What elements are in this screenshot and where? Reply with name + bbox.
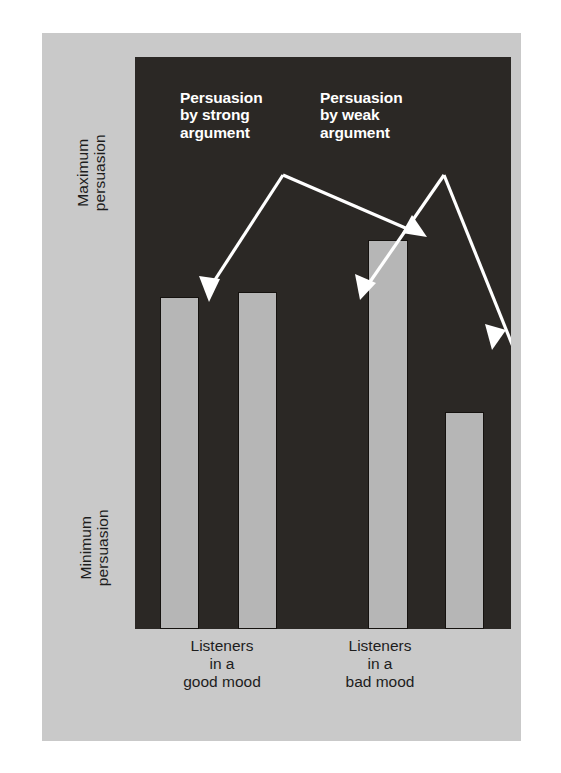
arrow-line-strong-to-bar1 (209, 175, 283, 289)
plot-area: Persuasion by strong argument Persuasion… (135, 57, 511, 629)
bar-good-mood-weak-argument (238, 292, 277, 629)
y-axis-maximum-line1: Maximum (75, 98, 92, 248)
arrow-line-weak-to-bar4 (444, 175, 511, 404)
x-axis-bad-mood-label: Listeners in a bad mood (300, 637, 460, 691)
x-axis-good-mood-line3: good mood (142, 673, 302, 691)
x-axis-good-mood-label: Listeners in a good mood (142, 637, 302, 691)
x-axis-good-mood-line2: in a (142, 655, 302, 673)
arrow-head-strong-to-bar1 (199, 276, 220, 302)
annotation-strong-line3: argument (180, 124, 263, 141)
arrow-line-strong-to-bar3 (283, 175, 417, 233)
annotation-weak-argument: Persuasion by weak argument (320, 89, 403, 141)
y-axis-minimum-line1: Minimum (78, 473, 95, 623)
annotation-strong-line2: by strong (180, 106, 263, 123)
bar-good-mood-strong-argument (160, 297, 199, 629)
bar-bad-mood-weak-argument (445, 412, 484, 629)
figure-panel: Maximum persuasion Minimum persuasion Pe… (42, 33, 521, 741)
arrow-head-weak-to-bar4 (485, 324, 506, 350)
y-axis-maximum-label: Maximum persuasion (75, 98, 108, 248)
annotation-weak-line1: Persuasion (320, 89, 403, 106)
y-axis-minimum-line2: persuasion (95, 473, 112, 623)
x-axis-bad-mood-line2: in a (300, 655, 460, 673)
arrow-head-strong-to-bar3 (402, 215, 427, 237)
y-axis-maximum-line2: persuasion (92, 98, 109, 248)
x-axis-bad-mood-line3: bad mood (300, 673, 460, 691)
annotation-strong-line1: Persuasion (180, 89, 263, 106)
annotation-strong-argument: Persuasion by strong argument (180, 89, 263, 141)
annotation-weak-line2: by weak (320, 106, 403, 123)
figure-root: Maximum persuasion Minimum persuasion Pe… (0, 0, 561, 773)
x-axis-good-mood-line1: Listeners (142, 637, 302, 655)
y-axis-minimum-label: Minimum persuasion (78, 473, 111, 623)
bar-bad-mood-strong-argument (368, 240, 408, 629)
x-axis-bad-mood-line1: Listeners (300, 637, 460, 655)
annotation-weak-line3: argument (320, 124, 403, 141)
